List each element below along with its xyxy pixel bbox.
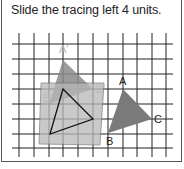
original-triangle xyxy=(108,89,152,133)
vertex-label-c: C xyxy=(154,113,162,125)
vertex-label-a: A xyxy=(119,75,127,87)
vertex-label-b-prime: B' xyxy=(43,92,52,104)
translation-diagram: A B C A' B' C' xyxy=(0,0,184,169)
vertex-label-a-prime: A' xyxy=(59,43,68,55)
vertex-label-c-prime: C' xyxy=(95,83,105,95)
vertex-label-b: B xyxy=(106,135,113,147)
